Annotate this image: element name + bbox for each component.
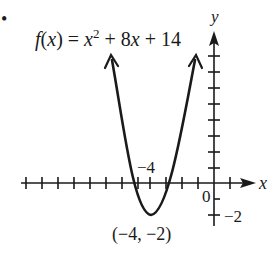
y-tick-label-neg2: −2 xyxy=(224,207,242,226)
y-axis-label: y xyxy=(209,7,219,26)
x-axis-label: x xyxy=(258,173,267,193)
x-tick-label-neg4: −4 xyxy=(137,158,156,177)
bullet: • xyxy=(1,9,7,29)
origin-label: 0 xyxy=(202,187,211,206)
vertex-label: (−4, −2) xyxy=(112,224,171,245)
function-label: f(x) = x2 + 8x + 14 xyxy=(35,26,181,51)
parabola-curve xyxy=(112,60,195,215)
parabola-graph: • f(x) = x2 + 8x + 14 x y xyxy=(0,0,276,261)
